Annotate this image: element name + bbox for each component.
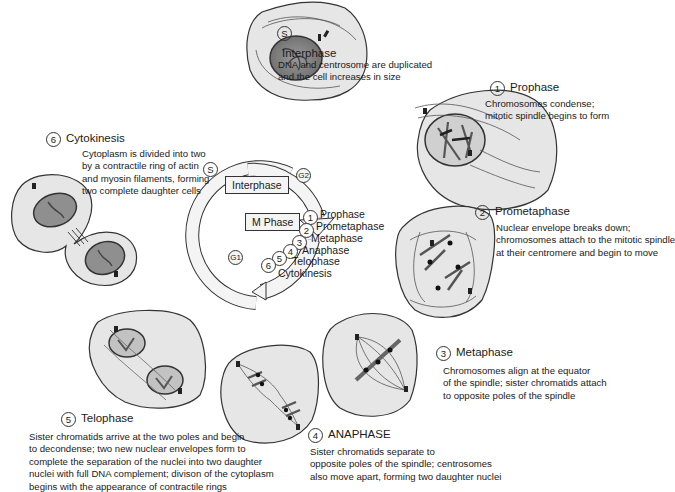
- stage-badge-6: 6: [46, 132, 61, 147]
- marker-g2: G2: [296, 168, 311, 183]
- anaphase-cell: [221, 345, 319, 443]
- stage-description: Sister chromatids separate to opposite p…: [310, 446, 501, 483]
- desc-line: of the spindle; sister chromatids attach: [443, 377, 607, 389]
- stage-badge-5: 5: [61, 412, 76, 427]
- stage-description: Chromosomes align at the equator of the …: [443, 365, 607, 402]
- interphase-box: Interphase: [225, 176, 289, 194]
- desc-line: Chromosomes align at the equator: [443, 365, 607, 377]
- stage-cytokinesis-label: 6Cytokinesis: [46, 132, 125, 147]
- prometaphase-cell: [396, 206, 495, 317]
- stage-title: Metaphase: [456, 346, 513, 358]
- desc-line: nuclei with full DNA complement; divison…: [29, 468, 274, 480]
- marker-g1: G1: [228, 250, 243, 265]
- phase-number-6: 6: [261, 258, 276, 273]
- mphase-box: M Phase: [245, 213, 300, 231]
- stage-prometaphase-label: 2Prometaphase: [475, 205, 570, 220]
- desc-line: also move apart, forming two daughter nu…: [310, 471, 501, 483]
- desc-line: complete the separation of the nuclei in…: [29, 456, 274, 468]
- stage-description: Cytoplasm is divided into two by a contr…: [82, 148, 209, 198]
- stage-anaphase-label: 4ANAPHASE: [308, 428, 391, 443]
- desc-line: DNA and centrosome are duplicated: [278, 59, 432, 71]
- metaphase-cell: [323, 314, 417, 417]
- stage-interphase-label: S: [277, 26, 297, 41]
- desc-line: begins with the appearance of contractil…: [29, 481, 274, 492]
- desc-line: chromosomes attach to the mitotic spindl…: [496, 234, 675, 246]
- stage-title: Cytokinesis: [66, 132, 125, 144]
- stage-description: Sister chromatids arrive at the two pole…: [29, 431, 274, 492]
- stage-telophase-label: 5Telophase: [61, 412, 133, 427]
- stage-title: Prometaphase: [495, 205, 570, 217]
- desc-line: Chromosomes condense;: [485, 98, 609, 110]
- desc-line: to opposite poles of the spindle: [443, 390, 607, 402]
- desc-line: Sister chromatids separate to: [310, 446, 501, 458]
- stage-badge-2: 2: [475, 205, 490, 220]
- stage-prophase-label: 1Prophase: [490, 81, 559, 96]
- desc-line: Cytoplasm is divided into two: [82, 148, 209, 160]
- cycle-label-telophase: Telophase: [292, 255, 340, 267]
- cycle-label-prometaphase: Prometaphase: [316, 220, 384, 232]
- cycle-label-prophase: Prophase: [320, 208, 365, 220]
- cycle-label-metaphase: Metaphase: [311, 232, 363, 244]
- marker-s: S: [203, 162, 218, 177]
- stage-metaphase-label: 3Metaphase: [436, 346, 513, 361]
- stage-description: Chromosomes condense; mitotic spindle be…: [485, 98, 609, 123]
- stage-badge-4: 4: [308, 428, 323, 443]
- cycle-label-cytokinesis: Cytokinesis: [278, 267, 332, 279]
- desc-line: and the cell increases in size: [278, 71, 432, 83]
- desc-line: by a contractile ring of actin: [82, 160, 209, 172]
- stage-badge-1: 1: [490, 81, 505, 96]
- stage-badge-3: 3: [436, 346, 451, 361]
- stage-description: DNA and centrosome are duplicated and th…: [278, 59, 432, 84]
- stage-title: Telophase: [81, 412, 133, 424]
- desc-line: two complete daughter cells: [82, 185, 209, 197]
- desc-line: opposite poles of the spindle; centrosom…: [310, 458, 501, 470]
- telophase-cell: [89, 310, 205, 408]
- stage-badge-s: S: [277, 26, 292, 41]
- desc-line: Nuclear envelope breaks down;: [496, 222, 675, 234]
- desc-line: Sister chromatids arrive at the two pole…: [29, 431, 274, 443]
- stage-description: Nuclear envelope breaks down; chromosome…: [496, 222, 675, 259]
- desc-line: and myosin filaments, forming: [82, 173, 209, 185]
- stage-title: ANAPHASE: [328, 428, 391, 440]
- stage-title: Prophase: [510, 81, 559, 93]
- desc-line: at their centromere and begin to move: [496, 247, 675, 259]
- desc-line: to decondense; two new nuclear envelopes…: [29, 443, 274, 455]
- desc-line: mitotic spindle begins to form: [485, 110, 609, 122]
